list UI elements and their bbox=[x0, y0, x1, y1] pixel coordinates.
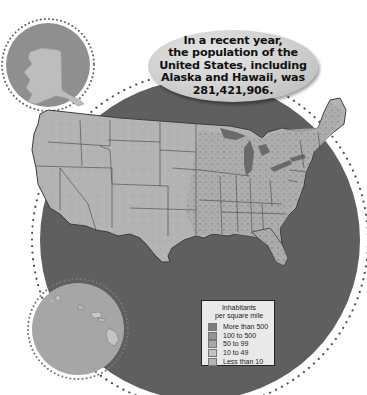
legend-swatch bbox=[208, 340, 217, 348]
legend-label: 50 to 99 bbox=[223, 340, 248, 348]
callout-line-2: the population of the bbox=[168, 47, 298, 59]
legend-item: 50 to 99 bbox=[208, 340, 270, 349]
legend-swatch bbox=[208, 358, 217, 366]
legend-label: Less than 10 bbox=[223, 358, 263, 366]
legend-swatch bbox=[208, 332, 217, 340]
legend-label: 10 to 49 bbox=[223, 349, 248, 357]
legend-item: 10 to 49 bbox=[208, 349, 270, 358]
callout-line-4: Alaska and Hawaii, was bbox=[161, 72, 305, 84]
callout-line-5: 281,421,906. bbox=[193, 85, 273, 97]
legend-label: More than 500 bbox=[223, 323, 268, 331]
population-map: In a recent year, the population of the … bbox=[0, 0, 367, 395]
map-legend: Inhabitants per square mile More than 50… bbox=[201, 300, 275, 366]
legend-item: 100 to 500 bbox=[208, 332, 270, 341]
legend-label: 100 to 500 bbox=[223, 332, 256, 340]
legend-item: Less than 10 bbox=[208, 357, 270, 366]
legend-title: Inhabitants per square mile bbox=[208, 304, 270, 320]
population-callout: In a recent year, the population of the … bbox=[148, 30, 318, 102]
alaska-inset bbox=[2, 19, 94, 111]
legend-title-line-1: Inhabitants bbox=[208, 304, 270, 312]
legend-swatch bbox=[208, 323, 217, 331]
legend-title-line-2: per square mile bbox=[208, 312, 270, 320]
legend-swatch bbox=[208, 349, 217, 357]
legend-item: More than 500 bbox=[208, 323, 270, 332]
